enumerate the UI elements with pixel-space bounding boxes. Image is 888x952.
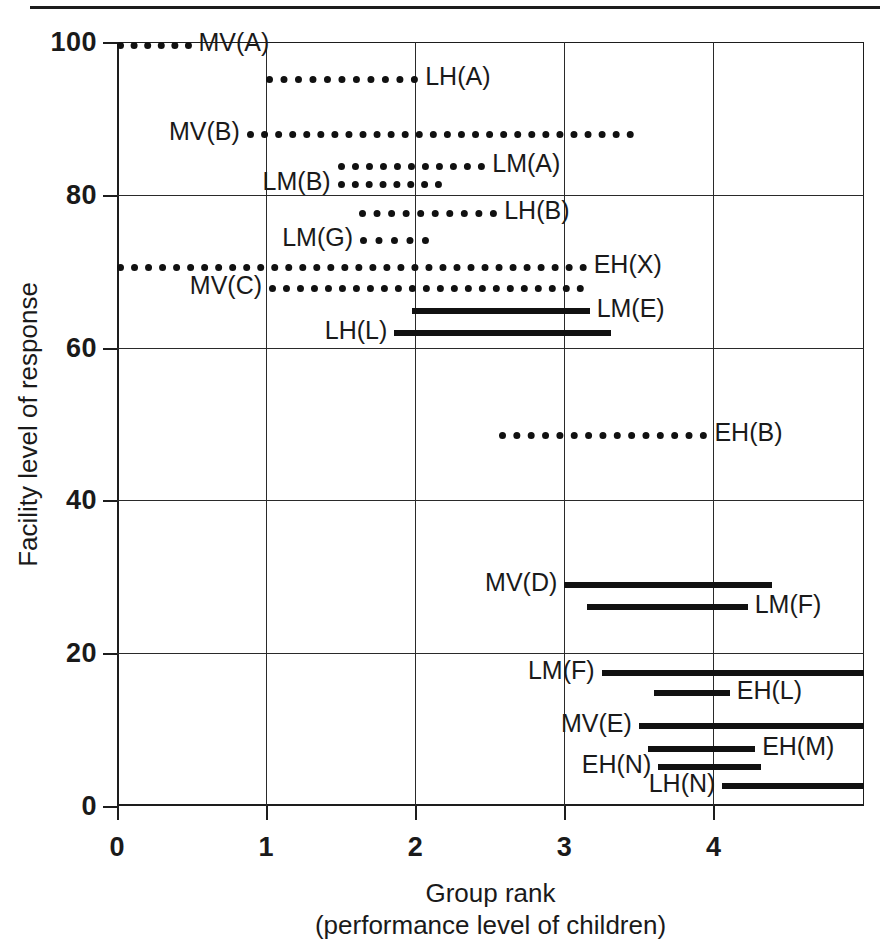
range-bar-dotted	[117, 42, 192, 49]
x-axis-tick-label: 0	[109, 832, 124, 863]
y-axis-tick-label: 20	[66, 638, 97, 669]
range-bar-label: LH(N)	[649, 769, 716, 798]
gridline-vertical	[266, 42, 267, 806]
range-bar-solid	[648, 746, 755, 752]
range-bar-solid	[639, 723, 864, 729]
y-axis-tick-label: 0	[81, 791, 97, 822]
range-bar-label: MV(C)	[190, 270, 262, 299]
x-axis-tick-label: 2	[408, 832, 423, 863]
range-bar-dotted	[338, 181, 442, 188]
range-bar-label: EH(M)	[762, 731, 834, 760]
gridline-horizontal	[117, 653, 864, 654]
y-axis-tick-label: 80	[66, 179, 97, 210]
range-bar-label: LM(F)	[528, 656, 595, 685]
range-bar-dotted	[247, 131, 635, 138]
range-bar-label: MV(D)	[485, 568, 557, 597]
x-axis-tick-label: 3	[557, 832, 572, 863]
top-rule-divider	[30, 6, 880, 9]
range-bar-label: LM(A)	[492, 148, 560, 177]
gridline-horizontal	[117, 195, 864, 196]
range-bar-label: LM(E)	[597, 293, 665, 322]
range-bar-label: LH(L)	[325, 316, 388, 345]
y-axis-tick	[103, 653, 117, 655]
x-axis-title-line1: Group rank	[117, 878, 864, 910]
range-bar-solid	[394, 330, 610, 336]
x-axis-tick-label: 1	[259, 832, 274, 863]
range-bar-label: EH(X)	[594, 249, 662, 278]
range-bar-label: LM(F)	[755, 590, 822, 619]
x-axis-tick	[564, 806, 566, 820]
range-bar-label: LM(G)	[282, 222, 353, 251]
range-bar-dotted	[266, 76, 418, 83]
range-bar-dotted	[338, 163, 486, 170]
x-axis-title: Group rank (performance level of childre…	[117, 878, 864, 941]
y-axis-tick-label: 100	[50, 27, 97, 58]
y-axis-title: Facility level of response	[8, 42, 48, 806]
y-axis-tick-label: 40	[66, 485, 97, 516]
x-axis-tick	[713, 806, 715, 820]
y-axis-title-text: Facility level of response	[13, 282, 44, 567]
gridline-vertical	[564, 42, 565, 806]
plot-area: 01234020406080100 MV(A)LH(A)MV(B)LM(A)LM…	[117, 42, 864, 806]
y-axis-tick	[103, 806, 117, 808]
x-axis-tick	[415, 806, 417, 820]
range-bar-solid	[654, 690, 730, 696]
range-bar-solid	[412, 308, 589, 314]
range-bar-dotted	[499, 432, 708, 439]
range-bar-solid	[602, 670, 864, 676]
range-bar-dotted	[360, 237, 429, 244]
range-bar-solid	[587, 604, 748, 610]
range-bar-label: MV(E)	[561, 708, 632, 737]
x-axis-tick	[117, 806, 119, 820]
range-bar-label: LH(A)	[425, 62, 490, 91]
y-axis-tick	[103, 348, 117, 350]
range-bar-dotted	[269, 285, 584, 292]
y-axis-tick	[103, 195, 117, 197]
gridline-horizontal	[117, 500, 864, 501]
x-axis-tick	[266, 806, 268, 820]
x-axis-tick-label: 4	[706, 832, 721, 863]
range-bar-label: MV(A)	[199, 28, 270, 57]
gridline-horizontal	[117, 348, 864, 349]
range-bar-label: MV(B)	[169, 116, 240, 145]
y-axis-tick	[103, 42, 117, 44]
range-bar-label: EH(L)	[737, 675, 802, 704]
range-bar-dotted	[117, 264, 587, 271]
range-bar-label: LM(B)	[263, 167, 331, 196]
range-bar-solid	[564, 582, 771, 588]
range-bar-label: EH(B)	[714, 417, 782, 446]
range-bar-label: LH(B)	[504, 196, 569, 225]
range-bar-dotted	[359, 210, 498, 217]
x-axis-title-line2: (performance level of children)	[117, 910, 864, 942]
y-axis-tick	[103, 500, 117, 502]
gridline-vertical	[415, 42, 416, 806]
range-bar-label: EH(N)	[582, 749, 651, 778]
y-axis-tick-label: 60	[66, 332, 97, 363]
figure-container: Facility level of response 0123402040608…	[0, 0, 888, 952]
range-bar-solid	[722, 783, 864, 789]
